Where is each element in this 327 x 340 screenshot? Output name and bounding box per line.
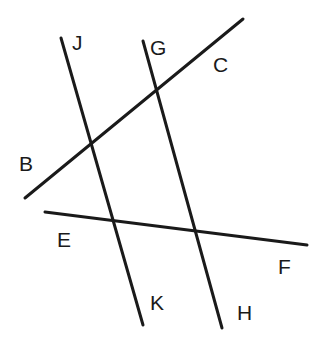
label-c: C bbox=[213, 54, 228, 75]
label-h: H bbox=[237, 302, 252, 323]
line-jk bbox=[61, 38, 143, 325]
label-j: J bbox=[72, 32, 83, 53]
label-k: K bbox=[150, 292, 164, 313]
label-g: G bbox=[150, 37, 166, 58]
line-ef bbox=[45, 212, 307, 245]
label-b: B bbox=[19, 153, 33, 174]
geometry-diagram: J G C B E F K H bbox=[0, 0, 327, 340]
label-f: F bbox=[278, 256, 291, 277]
label-e: E bbox=[57, 229, 71, 250]
line-bc bbox=[25, 19, 243, 198]
line-gh bbox=[143, 41, 222, 328]
